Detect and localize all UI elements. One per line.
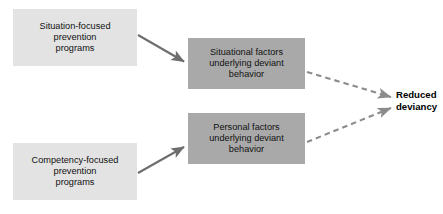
arrow-competency-programs-to-personal-factors bbox=[138, 147, 184, 173]
arrow-situational-factors-to-reduced-deviancy bbox=[307, 72, 391, 97]
diagram-canvas: Situation-focused prevention programs Co… bbox=[0, 0, 443, 214]
node-reduced-deviancy: Reduced deviancy bbox=[396, 89, 443, 113]
node-situational-factors: Situational factors underlying deviant b… bbox=[188, 38, 305, 89]
node-competency-focused-prevention-programs: Competency-focused prevention programs bbox=[13, 143, 137, 200]
arrow-personal-factors-to-reduced-deviancy bbox=[307, 108, 391, 142]
node-situation-focused-prevention-programs: Situation-focused prevention programs bbox=[13, 9, 137, 66]
arrow-situation-programs-to-situational-factors bbox=[138, 35, 184, 62]
node-personal-factors: Personal factors underlying deviant beha… bbox=[188, 113, 305, 164]
